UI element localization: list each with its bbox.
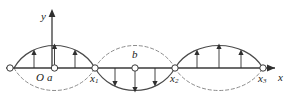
arrow-up-3a	[194, 50, 199, 69]
node-label-x1-sub: 1	[95, 77, 99, 85]
y-axis-arrowhead	[49, 9, 56, 17]
point-label-b: b	[132, 49, 138, 60]
figure-canvas: y x O a b x1 x2 x3	[0, 0, 289, 97]
arrow-up-3c	[238, 50, 243, 69]
displacement-arrows-lobe-3	[194, 44, 243, 69]
point-label-a: a	[47, 72, 53, 83]
node-label-x2-sub: 2	[175, 77, 179, 85]
origin-label: O	[36, 72, 44, 83]
node-label-x3-sub: 3	[263, 77, 267, 85]
node-marker-x1	[92, 65, 98, 71]
point-marker-b	[132, 65, 138, 71]
node-marker-x3	[260, 65, 266, 71]
dashed-lobe-3	[175, 68, 263, 91]
node-label-x2: x2	[170, 73, 178, 85]
node-label-x3: x3	[258, 73, 266, 85]
x-axis-label: x	[278, 72, 283, 83]
arrow-up-3b	[216, 44, 221, 69]
x-axis-arrowhead	[267, 65, 275, 72]
arrow-down-2a	[112, 68, 117, 87]
arrow-down-2c	[152, 68, 157, 87]
y-axis-label: y	[41, 11, 46, 22]
arrow-up-1c	[72, 50, 77, 69]
node-marker-x2	[172, 65, 178, 71]
node-marker-origin-left	[7, 65, 13, 71]
arrow-up-1a	[31, 50, 36, 69]
node-label-x1: x1	[90, 73, 98, 85]
